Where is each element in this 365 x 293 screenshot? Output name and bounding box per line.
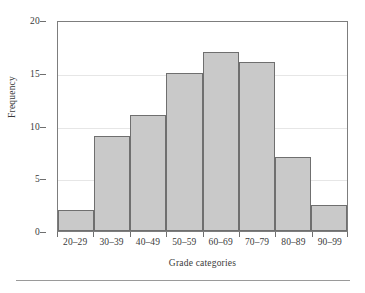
x-tick-label: 90–99 (312, 237, 348, 247)
bar-slot (203, 22, 239, 231)
x-tick-label: 30–39 (93, 237, 129, 247)
bar-90-99 (311, 205, 347, 231)
x-tick-label: 60–69 (203, 237, 239, 247)
bar-slot (130, 22, 166, 231)
bar-40-49 (130, 115, 166, 231)
y-tickmark (40, 179, 46, 180)
bar-80-89 (275, 157, 311, 231)
bar-50-59 (166, 73, 202, 231)
x-tick-labels: 20–2930–3940–4950–5960–6970–7980–8990–99 (57, 237, 348, 247)
plot-area (57, 21, 348, 232)
y-tick-label: 15 (4, 69, 40, 79)
y-axis: Frequency 05101520 (0, 0, 57, 253)
bar-slot (166, 22, 202, 231)
bar-slot (311, 22, 347, 231)
bar-70-79 (239, 62, 275, 231)
bar-60-69 (203, 52, 239, 231)
y-tickmark (40, 232, 46, 233)
bar-slot (58, 22, 94, 231)
y-tick-label: 20 (4, 17, 40, 27)
x-tick-label: 80–89 (275, 237, 311, 247)
footer-divider (16, 280, 350, 281)
y-tick-label: 0 (4, 228, 40, 238)
x-tick-label: 70–79 (239, 237, 275, 247)
histogram-figure: Frequency 05101520 20–2930–3940–4950–596… (0, 0, 365, 293)
bar-slot (239, 22, 275, 231)
x-axis-title: Grade categories (57, 258, 348, 268)
x-tick-label: 40–49 (130, 237, 166, 247)
x-tick-label: 20–29 (57, 237, 93, 247)
y-tickmark (40, 127, 46, 128)
bar-slot (94, 22, 130, 231)
y-tick-label: 5 (4, 175, 40, 185)
bar-series (58, 22, 347, 231)
x-tick-label: 50–59 (166, 237, 202, 247)
bar-30-39 (94, 136, 130, 231)
y-tickmark (40, 21, 46, 22)
bar-slot (275, 22, 311, 231)
y-tickmark (40, 74, 46, 75)
bar-20-29 (58, 210, 94, 231)
y-tick-label: 10 (4, 122, 40, 132)
